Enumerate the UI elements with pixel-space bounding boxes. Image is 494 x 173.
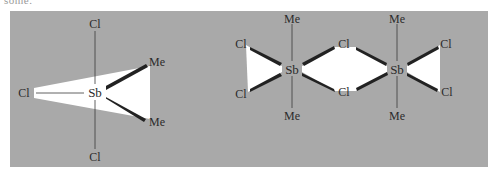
atom-cl-axial-bottom: Cl [89,150,101,164]
atom-sb2: Sb [390,62,404,77]
atom-cl-right-top: Cl [440,37,452,51]
atom-me-lower: Me [149,115,165,129]
atom-sb-center: Sb [88,85,102,100]
monomer-structure: Cl Sb Cl Cl Me Me [18,17,165,164]
atom-cl-equatorial-left: Cl [18,86,30,100]
structure-diagram: Cl Sb Cl Cl Me Me Me Me Me Me Sb Sb Cl C… [0,0,494,173]
atom-me-sb1-bottom: Me [284,109,300,123]
atom-sb1: Sb [285,62,299,77]
atom-cl-axial-top: Cl [89,17,101,31]
atom-me-upper: Me [149,55,165,69]
atom-cl-right-bottom: Cl [441,85,453,99]
atom-me-sb2-bottom: Me [389,109,405,123]
right-terminal-plane [407,45,440,92]
atom-cl-left-top: Cl [235,37,247,51]
atom-cl-bridge-bottom: Cl [338,85,350,99]
atom-cl-bridge-top: Cl [338,37,350,51]
atom-me-sb1-top: Me [284,12,300,26]
atom-me-sb2-top: Me [389,12,405,26]
atom-cl-left-bottom: Cl [235,87,247,101]
dimer-structure: Me Me Me Me Sb Sb Cl Cl Cl Cl Cl Cl [235,12,453,123]
